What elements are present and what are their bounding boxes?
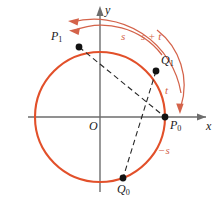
arc-label-s: s (121, 31, 125, 42)
y-axis-arrowhead (96, 6, 103, 16)
point-label-Q1: Q1 (161, 54, 174, 68)
point-Q1 (153, 68, 160, 75)
point-label-P0-sub: 0 (177, 124, 181, 133)
arc-t-arrowhead (176, 104, 183, 114)
arc-s-arrowhead (69, 28, 80, 35)
point-Q0 (120, 175, 127, 182)
y-axis-label: y (105, 4, 110, 16)
arc-label-t: t (165, 85, 168, 96)
arc-label-s-plus-t: s + t (141, 31, 161, 42)
point-label-P0: P0 (170, 119, 181, 133)
chords-group (79, 47, 165, 178)
unit-circle-diagram: O x y P0 P1 Q1 Q0 s s + t t −s (0, 0, 223, 202)
point-label-P1-sub: 1 (58, 35, 62, 44)
point-label-Q0-sub: 0 (126, 188, 130, 197)
point-label-Q0: Q0 (117, 183, 130, 197)
points-group (76, 44, 169, 182)
point-P1 (76, 44, 83, 51)
arc-s-plus-t-arrowhead (68, 18, 79, 25)
x-axis-arrowhead (197, 113, 206, 120)
arc-label-negative-s: −s (158, 145, 170, 156)
point-label-P1: P1 (51, 30, 62, 44)
origin-label: O (89, 120, 98, 132)
point-label-Q1-sub: 1 (170, 59, 174, 68)
diagram-canvas (0, 0, 223, 202)
point-P0 (162, 114, 169, 121)
x-axis-label: x (206, 120, 211, 132)
